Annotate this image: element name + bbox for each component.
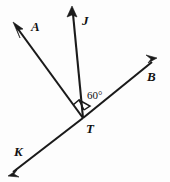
arrowhead-A — [13, 22, 23, 38]
geometry-diagram: 60° A J B K T — [0, 0, 170, 182]
arrowhead-J — [67, 6, 77, 17]
geometry-svg-canvas: 60° A J B K T — [0, 0, 170, 182]
point-label-A: A — [30, 19, 40, 34]
ray-segment-TK — [13, 118, 83, 172]
ray-segment-TJ — [73, 14, 83, 118]
point-label-T: T — [86, 121, 95, 136]
point-label-J: J — [81, 13, 89, 28]
point-label-B: B — [146, 69, 156, 84]
angle-label-60: 60° — [87, 89, 102, 101]
angle-marker-JTB — [79, 100, 90, 110]
point-label-K: K — [13, 144, 24, 159]
